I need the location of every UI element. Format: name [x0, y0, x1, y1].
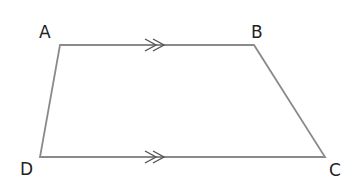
trapezium-diagram: A B C D [0, 0, 343, 190]
vertex-label-b: B [251, 22, 263, 42]
diagram-canvas: A B C D [0, 0, 343, 190]
vertex-label-a: A [39, 22, 51, 42]
vertex-label-c: C [329, 160, 341, 180]
vertex-label-d: D [20, 159, 33, 179]
trapezium-shape [40, 45, 325, 157]
